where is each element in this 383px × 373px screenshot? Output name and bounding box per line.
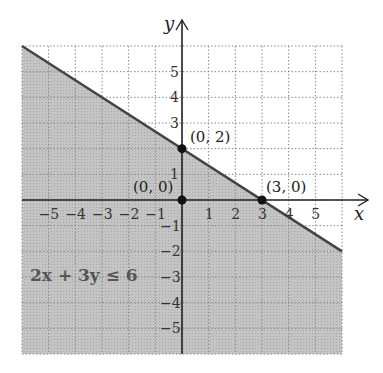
y-tick-label: −3 xyxy=(160,269,181,285)
point-label-3-0: (3, 0) xyxy=(266,178,306,196)
x-tick-label: −4 xyxy=(65,206,86,222)
point-label-0-0: (0, 0) xyxy=(133,178,173,196)
data-point xyxy=(178,196,187,205)
data-point xyxy=(178,144,187,153)
x-axis-label: x xyxy=(354,203,364,224)
inequality-annotation: 2x + 3y ≤ 6 xyxy=(30,265,138,285)
x-tick-label: 2 xyxy=(231,206,240,222)
x-tick-label: −5 xyxy=(39,206,60,222)
y-tick-label: 4 xyxy=(170,89,179,105)
x-tick-label: 4 xyxy=(285,206,294,222)
data-point xyxy=(258,196,267,205)
x-tick-label: 5 xyxy=(311,206,320,222)
y-tick-label: −5 xyxy=(160,320,181,336)
x-tick-label: 1 xyxy=(205,206,214,222)
x-tick-label: −3 xyxy=(92,206,113,222)
inequality-graph: −5−4−3−2−1123455431−1−2−3−4−5 x y (0, 2)… xyxy=(0,0,383,373)
y-tick-label: 3 xyxy=(170,115,179,131)
y-axis-label: y xyxy=(163,13,175,34)
y-tick-label: 5 xyxy=(170,64,179,80)
point-label-0-2: (0, 2) xyxy=(190,128,230,146)
y-tick-label: −2 xyxy=(160,243,181,259)
y-tick-label: −1 xyxy=(160,218,181,234)
x-tick-label: 3 xyxy=(258,206,267,222)
y-tick-label: −4 xyxy=(160,295,181,311)
x-tick-label: −2 xyxy=(119,206,140,222)
